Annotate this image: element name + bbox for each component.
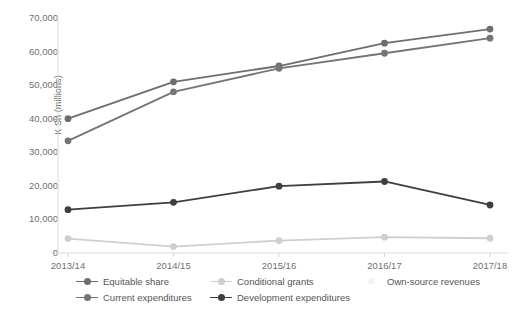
legend-marker-icon: [360, 277, 382, 286]
legend-marker-icon: [210, 293, 232, 302]
data-point: [381, 50, 388, 57]
plot-area: [0, 0, 515, 319]
legend-item[interactable]: Own-source revenues: [360, 276, 480, 287]
x-tick-label: 2015/16: [262, 260, 296, 271]
legend-item[interactable]: Equitable share: [76, 276, 169, 287]
data-point: [487, 202, 494, 209]
legend-marker-icon: [76, 293, 98, 302]
legend-label: Development expenditures: [237, 292, 350, 303]
x-tick-label: 2013/14: [51, 260, 85, 271]
chart-legend: Equitable shareConditional grantsOwn-sou…: [0, 276, 515, 316]
data-point: [381, 178, 388, 185]
data-point: [487, 235, 494, 242]
x-tick-label: 2016/17: [367, 260, 401, 271]
legend-marker-icon: [210, 277, 232, 286]
data-point: [276, 183, 283, 190]
data-point: [65, 115, 72, 122]
line-chart: K Sh (millions) 010,00020,00030,00040,00…: [0, 0, 515, 319]
data-point: [381, 40, 388, 47]
data-point: [65, 137, 72, 144]
x-tick-label: 2014/15: [156, 260, 190, 271]
data-point: [65, 206, 72, 213]
legend-item[interactable]: Development expenditures: [210, 292, 350, 303]
data-point: [170, 199, 177, 206]
data-point: [170, 88, 177, 95]
legend-label: Current expenditures: [103, 292, 192, 303]
legend-label: Equitable share: [103, 276, 169, 287]
data-point: [487, 26, 494, 33]
data-point: [65, 235, 72, 242]
data-point: [487, 35, 494, 42]
data-point: [276, 237, 283, 244]
data-point: [170, 78, 177, 85]
data-point: [170, 243, 177, 250]
legend-item[interactable]: Conditional grants: [210, 276, 314, 287]
x-tick-label: 2017/18: [473, 260, 507, 271]
legend-label: Conditional grants: [237, 276, 314, 287]
data-point: [381, 234, 388, 241]
legend-marker-icon: [76, 277, 98, 286]
legend-label: Own-source revenues: [387, 276, 480, 287]
series-line-current-expenditures: [68, 38, 490, 141]
series-line-equitable-share: [68, 29, 490, 119]
data-point: [276, 65, 283, 72]
legend-item[interactable]: Current expenditures: [76, 292, 192, 303]
